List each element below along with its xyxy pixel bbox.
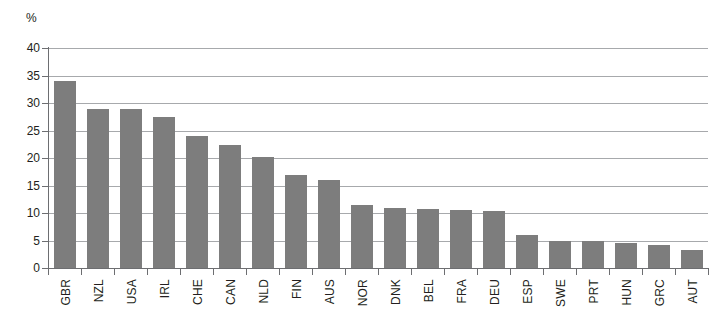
y-tick-label-10: 10 [0, 206, 40, 220]
bar-dnk [384, 208, 406, 269]
x-tick-mark-18 [642, 269, 643, 275]
x-cat-label-can: CAN [224, 279, 238, 305]
bars-group [48, 48, 708, 268]
x-tick-mark-16 [576, 269, 577, 275]
x-cat-label-aus: AUS [323, 279, 337, 304]
x-tick-mark-0 [48, 269, 49, 275]
bar-gbr [54, 81, 76, 268]
y-axis-unit-label: % [26, 11, 37, 25]
bar-grc [648, 245, 670, 268]
bar-prt [582, 241, 604, 269]
y-tick-label-15: 15 [0, 179, 40, 193]
x-tick-mark-12 [444, 269, 445, 275]
bar-nor [351, 205, 373, 268]
bar-irl [153, 117, 175, 268]
bar-hun [615, 243, 637, 268]
x-tick-mark-14 [510, 269, 511, 275]
x-tick-mark-17 [609, 269, 610, 275]
x-cat-label-prt: PRT [587, 279, 601, 303]
y-tick-label-5: 5 [0, 234, 40, 248]
bar-che [186, 136, 208, 268]
x-tick-mark-19 [675, 269, 676, 275]
x-cat-label-irl: IRL [158, 279, 172, 298]
x-tick-mark-13 [477, 269, 478, 275]
bar-can [219, 145, 241, 268]
x-tick-mark-11 [411, 269, 412, 275]
y-tick-label-30: 30 [0, 96, 40, 110]
x-tick-mark-8 [312, 269, 313, 275]
x-cat-label-che: CHE [191, 279, 205, 305]
x-cat-label-fin: FIN [290, 279, 304, 299]
x-tick-mark-15 [543, 269, 544, 275]
bar-bel [417, 209, 439, 268]
x-cat-label-hun: HUN [620, 279, 634, 306]
bar-fin [285, 175, 307, 269]
y-tick-label-0: 0 [0, 261, 40, 275]
bar-esp [516, 235, 538, 268]
bar-swe [549, 241, 571, 269]
bar-nzl [87, 109, 109, 269]
bar-fra [450, 210, 472, 268]
x-tick-mark-6 [246, 269, 247, 275]
x-tick-mark-10 [378, 269, 379, 275]
bar-aut [681, 250, 703, 268]
y-tick-label-20: 20 [0, 151, 40, 165]
y-tick-label-35: 35 [0, 69, 40, 83]
x-tick-mark-5 [213, 269, 214, 275]
y-tick-label-25: 25 [0, 124, 40, 138]
bar-usa [120, 109, 142, 269]
x-tick-mark-2 [114, 269, 115, 275]
x-cat-label-gbr: GBR [59, 279, 73, 306]
x-cat-label-nld: NLD [257, 279, 271, 304]
bar-nld [252, 157, 274, 268]
bar-aus [318, 180, 340, 268]
x-tick-mark-7 [279, 269, 280, 275]
bar-chart-figure: % 0510152025303540 GBRNZLUSAIRLCHECANNLD… [0, 0, 725, 327]
x-cat-label-esp: ESP [521, 279, 535, 304]
x-cat-label-fra: FRA [455, 279, 469, 304]
x-tick-mark-1 [81, 269, 82, 275]
x-tick-mark-9 [345, 269, 346, 275]
x-cat-label-dnk: DNK [389, 279, 403, 305]
x-cat-label-grc: GRC [653, 279, 667, 306]
x-cat-label-bel: BEL [422, 279, 436, 302]
x-tick-mark-4 [180, 269, 181, 275]
bar-deu [483, 211, 505, 268]
x-cat-label-swe: SWE [554, 279, 568, 307]
x-cat-label-nor: NOR [356, 279, 370, 306]
x-cat-label-nzl: NZL [92, 279, 106, 302]
x-cat-label-aut: AUT [686, 279, 700, 304]
x-cat-label-deu: DEU [488, 279, 502, 305]
x-tick-mark-end [708, 269, 709, 275]
x-cat-label-usa: USA [125, 279, 139, 304]
y-tick-label-40: 40 [0, 41, 40, 55]
x-tick-mark-3 [147, 269, 148, 275]
